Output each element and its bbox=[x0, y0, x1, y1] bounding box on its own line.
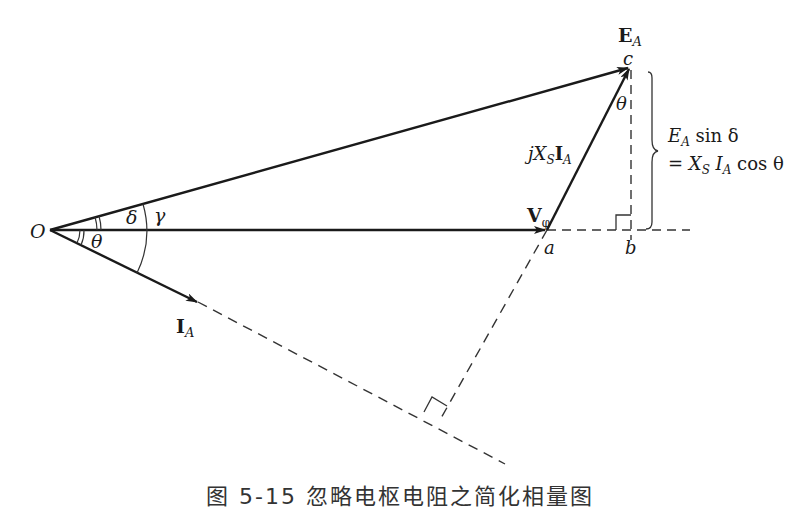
annotation-line1: EA sin δ bbox=[667, 125, 739, 149]
jxsia-dashed-extension bbox=[440, 230, 547, 420]
point-o-label: O bbox=[30, 220, 46, 242]
vector-ia bbox=[50, 230, 197, 302]
gamma-label: γ bbox=[154, 204, 166, 226]
figure-caption: 图 5-15 忽略电枢电阻之简化相量图 bbox=[0, 478, 800, 510]
point-a-label: a bbox=[544, 237, 555, 258]
theta-arc-2 bbox=[81, 230, 84, 245]
gamma-arc bbox=[137, 204, 147, 273]
vphi-label: Vφ bbox=[526, 204, 550, 230]
theta-arc-1 bbox=[77, 230, 80, 243]
delta-arc-2 bbox=[99, 216, 101, 230]
ea-label: EA bbox=[618, 24, 642, 49]
curly-brace bbox=[646, 72, 658, 229]
theta-top-label: θ bbox=[616, 93, 627, 114]
theta-origin-label: θ bbox=[91, 230, 103, 252]
delta-label: δ bbox=[126, 206, 137, 228]
jxsia-label: jXSIA bbox=[524, 143, 572, 167]
point-c-label: c bbox=[623, 48, 633, 69]
delta-arc-1 bbox=[95, 217, 97, 230]
point-b-label: b bbox=[625, 237, 637, 258]
right-angle-mark-b bbox=[616, 215, 631, 230]
annotation-line2: = XS IA cos θ bbox=[668, 153, 784, 177]
ia-dashed-extension bbox=[198, 302, 505, 464]
ia-label: IA bbox=[176, 315, 194, 340]
right-angle-mark-foot bbox=[424, 397, 447, 412]
